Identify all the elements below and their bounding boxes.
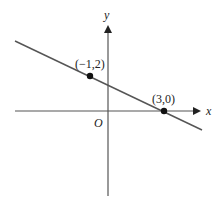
point-3-0: [161, 108, 167, 114]
point-label-3-0: (3,0): [152, 92, 175, 106]
point-label-neg1-2: (−1,2): [75, 57, 105, 71]
x-axis-arrow-icon: [193, 107, 201, 115]
x-axis-label: x: [205, 104, 212, 118]
y-axis-arrow-icon: [104, 25, 112, 33]
y-axis-label: y: [103, 8, 110, 22]
coordinate-diagram: y x O (−1,2) (3,0): [0, 0, 222, 204]
origin-label: O: [94, 116, 103, 130]
point-neg1-2: [87, 73, 93, 79]
